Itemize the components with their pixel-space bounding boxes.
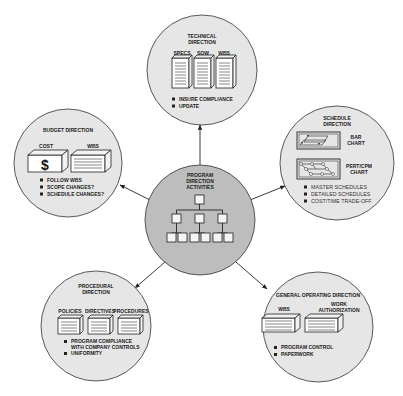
work-authorization-label-2: AUTHORIZATION <box>318 307 359 313</box>
bullet-icon <box>64 352 67 355</box>
node-technical-direction: TECHNICAL DIRECTION SPECS SOW WBS <box>147 15 257 125</box>
work-authorization-box-icon <box>305 314 343 332</box>
budget-bullet-1: FOLLOW WBS <box>47 177 82 183</box>
bullet-icon <box>304 200 307 203</box>
node-general-operating-direction: GENERAL OPERATING DIRECTION WBS WORK AUT… <box>262 272 373 382</box>
connector-procedural <box>135 262 165 288</box>
bullet-icon <box>172 98 175 101</box>
bullet-icon <box>40 193 43 196</box>
document-sow: SOW <box>194 50 214 88</box>
bullet-icon <box>304 186 307 189</box>
budget-bullet-3: SCHEDULE CHANGES? <box>47 191 104 197</box>
budget-title: BUDGET DIRECTION <box>43 127 93 133</box>
bullet-icon <box>172 105 175 108</box>
bullet-icon <box>304 193 307 196</box>
policies-box-icon <box>58 315 83 334</box>
connector-budget <box>120 185 150 200</box>
node-procedural-direction: PROCEDURAL DIRECTION POLICIES DIRECTIVES… <box>41 271 151 381</box>
budget-bullet-2: SCOPE CHANGES? <box>47 184 94 190</box>
document-stack-icon <box>172 55 192 88</box>
general-wbs-label: WBS <box>278 306 290 312</box>
node-schedule-direction: SCHEDULE DIRECTION BAR CHART PERT/CPM CH… <box>280 106 394 220</box>
policies-label: POLICIES <box>58 308 82 314</box>
schedule-title-2: DIRECTION <box>323 121 351 127</box>
pert-cpm-chart-icon <box>297 159 340 179</box>
document-specs: SPECS <box>172 50 192 88</box>
node-budget-direction: BUDGET DIRECTION COST $ WBS FOLLOW WBS S… <box>14 109 122 217</box>
document-stack-icon <box>216 55 236 88</box>
schedule-bullet-1: MASTER SCHEDULES <box>311 184 367 190</box>
bullet-icon <box>274 346 277 349</box>
schedule-bullet-2: DETAILED SCHEDULES <box>311 191 371 197</box>
document-stack-icon <box>194 55 214 88</box>
program-direction-diagram: TECHNICAL DIRECTION SPECS SOW WBS <box>0 0 403 396</box>
wbs-box-icon <box>71 150 111 172</box>
connector-schedule <box>250 186 285 200</box>
connector-general <box>236 262 267 289</box>
budget-wbs-label: WBS <box>87 143 99 149</box>
wbs-box-icon <box>262 314 300 332</box>
procedural-title-2: DIRECTION <box>82 289 110 295</box>
directives-label: DIRECTIVES <box>85 308 116 314</box>
bullet-icon <box>40 179 43 182</box>
node-program-direction-activities: PROGRAM DIRECTION ACTIVITIES <box>145 165 255 275</box>
procedural-bullet-2: UNIFORMITY <box>71 350 103 356</box>
pert-chart-label-2: CHART <box>350 169 368 175</box>
document-wbs: WBS <box>216 50 236 88</box>
dollar-sign-icon: $ <box>41 157 49 173</box>
technical-bullet-1: INSURE COMPLIANCE <box>179 96 234 102</box>
general-bullet-1: PROGRAM CONTROL <box>281 344 333 350</box>
bar-chart-label-2: CHART <box>347 140 365 146</box>
procedures-box-icon <box>118 315 143 334</box>
bullet-icon <box>40 186 43 189</box>
procedures-label: PROCEDURES <box>113 308 149 314</box>
budget-cost-label: COST <box>39 143 53 149</box>
general-bullet-2: PAPERWORK <box>281 351 314 357</box>
general-title: GENERAL OPERATING DIRECTION <box>276 292 360 298</box>
directives-box-icon <box>88 315 113 334</box>
technical-bullet-2: UPDATE <box>179 103 200 109</box>
schedule-bullet-3: COST/TIME TRADE-OFF <box>311 198 372 204</box>
technical-title-2: DIRECTION <box>188 39 216 45</box>
center-title-3: ACTIVITIES <box>186 184 214 190</box>
bullet-icon <box>274 353 277 356</box>
cost-box-icon: $ <box>28 150 68 173</box>
bullet-icon <box>64 340 67 343</box>
bar-chart-icon <box>297 132 340 149</box>
